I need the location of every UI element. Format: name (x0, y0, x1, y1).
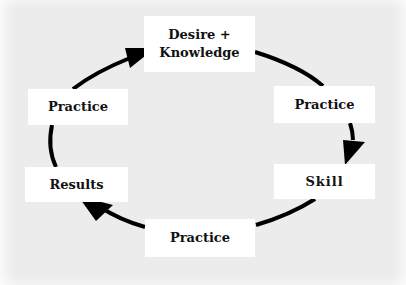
arrow-head-icon (343, 140, 365, 165)
node-label: Practice (170, 229, 230, 247)
node-results: Results (25, 167, 128, 202)
node-label: Practice (294, 96, 354, 114)
node-label: Results (49, 176, 103, 194)
connector-line (255, 52, 323, 86)
node-practice-left: Practice (28, 89, 128, 125)
connector-line (350, 123, 353, 140)
node-label-line2: Knowledge (159, 44, 239, 62)
node-label: Skill (305, 173, 343, 191)
connector-line (73, 58, 130, 89)
node-practice-bottom: Practice (145, 219, 255, 257)
node-practice-right: Practice (274, 86, 375, 123)
connector-line (50, 125, 56, 167)
node-label-line1: Desire + (168, 26, 230, 44)
node-skill: Skill (274, 164, 375, 199)
node-desire-knowledge: Desire + Knowledge (144, 16, 255, 72)
node-label: Practice (48, 98, 108, 116)
connector-line (256, 199, 315, 225)
